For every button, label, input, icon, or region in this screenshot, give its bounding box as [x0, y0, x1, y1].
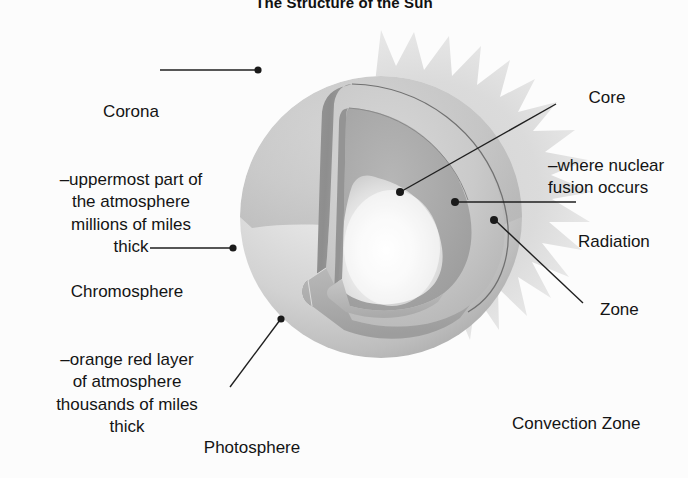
photosphere-leader-dot: [277, 315, 284, 322]
core-leader-dot: [396, 188, 404, 196]
radiation-leader-dot: [451, 198, 459, 206]
label-core-heading: Core: [548, 87, 666, 110]
label-convection-zone: Convection Zone: [512, 368, 688, 478]
label-photosphere: Photosphere –the lower atmosphere and wh…: [104, 392, 400, 478]
label-radiation-zone: Radiation Zone: [578, 186, 688, 366]
convection-leader-dot: [490, 216, 498, 224]
label-convection-zone-text: Convection Zone: [512, 413, 688, 436]
label-radiation-zone-line1: Radiation: [578, 231, 688, 254]
corona-leader-dot: [254, 66, 261, 73]
label-corona-heading: Corona: [22, 101, 240, 124]
sun-structure-figure: The Structure of the Sun Corona –uppermo…: [0, 0, 688, 478]
label-radiation-zone-line2: Zone: [578, 299, 688, 322]
label-photosphere-heading: Photosphere: [104, 437, 400, 460]
core-glow: [344, 190, 440, 306]
label-chromosphere-heading: Chromosphere: [14, 281, 240, 304]
